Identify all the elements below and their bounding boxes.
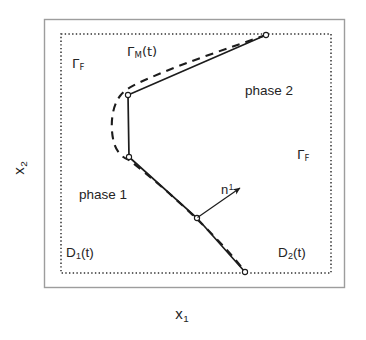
label-normal-sup: 1 xyxy=(228,182,233,192)
label-gamma-f-right: ΓF xyxy=(297,148,309,163)
interface-node xyxy=(125,92,130,97)
interface-nodes xyxy=(125,32,268,274)
label-domain-1-suffix: (t) xyxy=(81,245,94,260)
fixed-boundary-rect xyxy=(61,34,331,273)
axis-label-x1-base: x xyxy=(175,305,183,322)
label-domain-1-base: D xyxy=(66,245,76,260)
label-gamma-m-suffix: (t) xyxy=(142,44,157,59)
interface-node xyxy=(263,32,268,37)
label-gamma-m-sub: M xyxy=(134,50,142,60)
label-gamma-f-right-sub: F xyxy=(304,153,309,163)
axis-label-x2-sub: 2 xyxy=(18,161,29,167)
label-gamma-m: ΓM(t) xyxy=(127,45,157,60)
axis-label-x2: x2 xyxy=(11,161,29,174)
diagram-canvas xyxy=(0,0,366,340)
label-gamma-f-left-sub: F xyxy=(79,62,84,72)
moving-interface-dashed xyxy=(112,35,266,272)
label-phase-1: phase 1 xyxy=(79,188,127,202)
label-gamma-f-left: ΓF xyxy=(72,57,84,72)
label-normal-vector: n1 xyxy=(221,183,233,196)
label-domain-2-base: D xyxy=(278,245,288,260)
axis-label-x2-base: x xyxy=(10,167,27,175)
label-domain-2-suffix: (t) xyxy=(293,245,306,260)
axis-label-x1-sub: 1 xyxy=(183,313,189,324)
interface-node xyxy=(242,269,247,274)
moving-interface-polyline xyxy=(128,35,266,272)
label-domain-2: D2(t) xyxy=(278,246,306,261)
label-phase-2: phase 2 xyxy=(245,84,293,98)
axis-label-x1: x1 xyxy=(175,306,188,324)
interface-node xyxy=(126,154,131,159)
label-domain-1: D1(t) xyxy=(66,246,94,261)
normal-vector-arrow xyxy=(198,188,241,218)
